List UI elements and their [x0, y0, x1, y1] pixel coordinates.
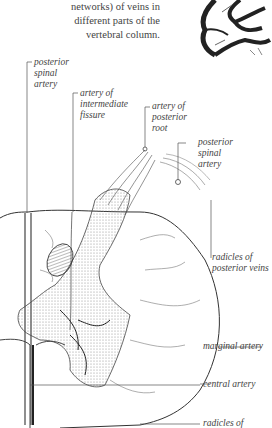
label-posterior-spinal-artery-left: posterior spinal artery [34, 57, 69, 90]
label-marginal-artery: marginal artery [203, 341, 263, 352]
label-artery-posterior-root: artery of posterior root [152, 101, 187, 134]
grey-matter [18, 189, 130, 387]
vein-network-image [203, 0, 270, 55]
label-radicles-posterior-veins: radicles of posterior veins [212, 252, 269, 274]
label-artery-intermediate-fissure: artery of intermediate fissure [80, 88, 128, 121]
label-radicles-bottom: radicles of [203, 418, 243, 428]
label-central-artery: central artery [203, 379, 256, 390]
label-posterior-spinal-artery-right: posterior spinal artery [198, 137, 233, 170]
